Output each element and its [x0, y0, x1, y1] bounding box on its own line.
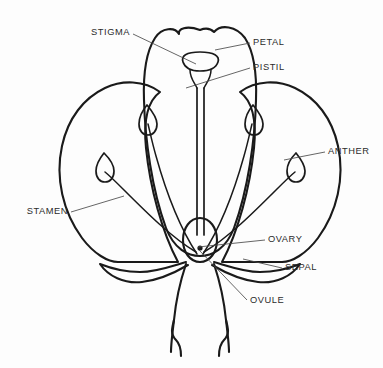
- flower-diagram-canvas: STIGMA PETAL PISTIL ANTHER STAMEN OVARY …: [0, 0, 383, 368]
- label-sepal: SEPAL: [285, 262, 317, 272]
- label-ovary: OVARY: [268, 234, 302, 244]
- leader-line-stigma: [133, 34, 196, 64]
- label-anther: ANTHER: [328, 146, 370, 156]
- leader-line-ovule: [199, 250, 247, 300]
- petals-group: [59, 27, 340, 262]
- label-pistil: PISTIL: [253, 62, 285, 72]
- stem-right-edge: [219, 320, 228, 356]
- stigma-neck-right: [204, 70, 211, 88]
- label-stigma: STIGMA: [91, 27, 130, 37]
- receptacle-right-edge: [214, 264, 229, 352]
- labels-group: STIGMA PETAL PISTIL ANTHER STAMEN OVARY …: [27, 27, 370, 305]
- receptacle-left-edge: [171, 264, 186, 352]
- leader-line-anther: [284, 152, 325, 160]
- sepal-left: [100, 262, 188, 282]
- stem-left-edge: [172, 320, 181, 356]
- leader-line-petal: [215, 43, 250, 50]
- stamens-group: [96, 105, 305, 254]
- label-stamen: STAMEN: [27, 206, 68, 216]
- flower-anatomy-diagram: STIGMA PETAL PISTIL ANTHER STAMEN OVARY …: [0, 0, 383, 368]
- label-ovule: OVULE: [250, 295, 284, 305]
- stem-group: [171, 264, 229, 356]
- leader-line-stamen: [71, 196, 124, 212]
- leader-line-sepal: [243, 259, 282, 268]
- stigma-cap: [183, 52, 219, 71]
- label-petal: PETAL: [253, 37, 285, 47]
